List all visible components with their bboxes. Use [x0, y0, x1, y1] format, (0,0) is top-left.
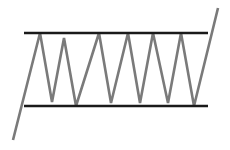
- rectangle-pattern-diagram: [0, 0, 230, 150]
- diagram-svg: [0, 0, 230, 150]
- price-zigzag-line: [13, 8, 218, 140]
